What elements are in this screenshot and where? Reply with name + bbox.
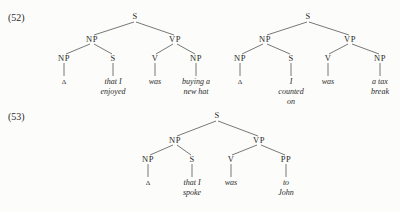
leaf-line: spoke bbox=[183, 188, 201, 198]
leaf-line: to bbox=[278, 178, 294, 188]
node-s-root: S bbox=[214, 110, 219, 120]
leaf-line: break bbox=[371, 87, 389, 97]
node-np: NP bbox=[86, 34, 98, 44]
node-vp-complement: PP bbox=[281, 154, 291, 164]
leaf-vp-complement: buying a new hat bbox=[182, 77, 210, 97]
node-v: V bbox=[228, 154, 235, 164]
node-vp: VP bbox=[169, 34, 181, 44]
leaf-v: was bbox=[322, 77, 334, 87]
node-np: NP bbox=[169, 135, 181, 145]
leaf-line: I bbox=[278, 77, 303, 87]
leaf-line: buying a bbox=[182, 77, 210, 87]
node-np: NP bbox=[259, 34, 271, 44]
node-vp-complement: NP bbox=[374, 53, 386, 63]
node-v: V bbox=[325, 53, 332, 63]
leaf-s-child: that I spoke bbox=[183, 178, 201, 198]
leaf-line: John bbox=[278, 188, 294, 198]
leaf-delta: Δ bbox=[146, 178, 151, 188]
leaf-v: was bbox=[225, 178, 237, 188]
leaf-line: new hat bbox=[182, 87, 210, 97]
leaf-v: was bbox=[149, 77, 161, 87]
node-s-child: S bbox=[189, 154, 194, 164]
node-s-root: S bbox=[132, 11, 137, 21]
leaf-delta: Δ bbox=[238, 77, 243, 87]
node-vp-complement: NP bbox=[190, 53, 202, 63]
node-s-root: S bbox=[305, 11, 310, 21]
leaf-line: a tax bbox=[371, 77, 389, 87]
leaf-delta: Δ bbox=[62, 77, 67, 87]
node-np-child: NP bbox=[58, 53, 70, 63]
node-v: V bbox=[152, 53, 159, 63]
leaf-line: counted bbox=[278, 87, 303, 97]
node-s-child: S bbox=[288, 53, 293, 63]
leaf-s-child: that I enjoyed bbox=[101, 77, 126, 97]
leaf-s-child: I counted on bbox=[278, 77, 303, 107]
leaf-line: that I bbox=[183, 178, 201, 188]
leaf-vp-complement: a tax break bbox=[371, 77, 389, 97]
node-vp: VP bbox=[253, 135, 265, 145]
node-np-child: NP bbox=[234, 53, 246, 63]
node-vp: VP bbox=[344, 34, 356, 44]
leaf-vp-complement: to John bbox=[278, 178, 294, 198]
leaf-line: on bbox=[278, 97, 303, 107]
leaf-line: enjoyed bbox=[101, 87, 126, 97]
node-np-child: NP bbox=[142, 154, 154, 164]
node-s-child: S bbox=[110, 53, 115, 63]
leaf-line: that I bbox=[101, 77, 126, 87]
